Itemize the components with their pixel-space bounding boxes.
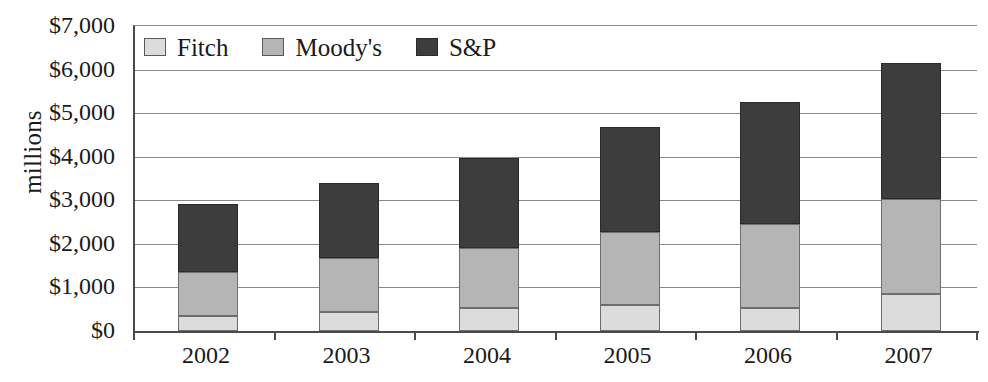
plot-area: [133, 25, 977, 331]
x-tick-label-2005: 2005: [568, 341, 688, 369]
y-tick-label: $2,000: [49, 231, 115, 255]
bar-segment-fitch-2007[interactable]: [881, 294, 941, 331]
bar-segment-sp-2006[interactable]: [740, 102, 800, 224]
chart-legend: FitchMoody'sS&P: [144, 30, 496, 64]
legend-swatch-fitch: [144, 38, 166, 56]
bar-segment-moodys-2003[interactable]: [319, 258, 379, 312]
y-axis-tick-labels: $0$1,000$2,000$3,000$4,000$5,000$6,000$7…: [0, 0, 121, 382]
x-tick-label-2003: 2003: [287, 341, 407, 369]
bar-segment-sp-2004[interactable]: [459, 158, 519, 248]
bar-segment-moodys-2006[interactable]: [740, 224, 800, 308]
legend-label: S&P: [449, 35, 496, 60]
x-tick-label-2002: 2002: [146, 341, 266, 369]
bar-segment-fitch-2005[interactable]: [600, 305, 660, 331]
bar-group-2003[interactable]: [319, 26, 379, 331]
y-tick-label: $3,000: [49, 187, 115, 211]
y-tick-label: $7,000: [49, 13, 115, 37]
bars-layer: [135, 26, 977, 331]
y-tick-label: $0: [91, 318, 115, 342]
x-axis-tick: [414, 331, 416, 340]
y-tick-label: $6,000: [49, 57, 115, 81]
x-axis-tick: [133, 331, 135, 340]
bar-segment-fitch-2002[interactable]: [178, 316, 238, 331]
bar-segment-sp-2007[interactable]: [881, 63, 941, 199]
x-tick-label-2007: 2007: [849, 341, 969, 369]
legend-label: Fitch: [177, 35, 228, 60]
x-axis-tick: [836, 331, 838, 340]
bar-segment-moodys-2002[interactable]: [178, 272, 238, 316]
bar-segment-fitch-2003[interactable]: [319, 312, 379, 331]
bar-segment-sp-2002[interactable]: [178, 204, 238, 272]
bar-group-2004[interactable]: [459, 26, 519, 331]
bar-segment-sp-2003[interactable]: [319, 183, 379, 258]
x-tick-label-2006: 2006: [708, 341, 828, 369]
bar-group-2007[interactable]: [881, 26, 941, 331]
x-axis-tick: [695, 331, 697, 340]
x-tick-label-2004: 2004: [427, 341, 547, 369]
legend-swatch-moodys: [262, 38, 284, 56]
legend-item-moodys[interactable]: Moody's: [262, 35, 381, 60]
stacked-bar-chart: millions $0$1,000$2,000$3,000$4,000$5,00…: [0, 0, 988, 382]
bar-group-2005[interactable]: [600, 26, 660, 331]
x-axis-tick: [976, 331, 978, 340]
legend-item-fitch[interactable]: Fitch: [144, 35, 228, 60]
bar-group-2002[interactable]: [178, 26, 238, 331]
x-axis-tick: [555, 331, 557, 340]
x-axis-tick-labels: 200220032004200520062007: [0, 341, 988, 381]
y-tick-label: $1,000: [49, 274, 115, 298]
legend-item-sp[interactable]: S&P: [416, 35, 496, 60]
bar-segment-fitch-2006[interactable]: [740, 308, 800, 331]
x-axis-ticks: [133, 331, 978, 341]
legend-swatch-sp: [416, 38, 438, 56]
bar-segment-moodys-2007[interactable]: [881, 199, 941, 294]
y-tick-label: $5,000: [49, 100, 115, 124]
bar-segment-fitch-2004[interactable]: [459, 308, 519, 331]
legend-label: Moody's: [295, 35, 381, 60]
bar-segment-moodys-2004[interactable]: [459, 248, 519, 308]
bar-segment-sp-2005[interactable]: [600, 127, 660, 232]
bar-group-2006[interactable]: [740, 26, 800, 331]
x-axis-tick: [274, 331, 276, 340]
bar-segment-moodys-2005[interactable]: [600, 232, 660, 305]
y-tick-label: $4,000: [49, 144, 115, 168]
